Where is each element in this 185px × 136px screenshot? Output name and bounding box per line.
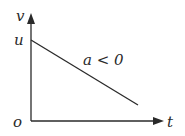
intercept-label: u (14, 31, 24, 49)
x-axis-arrow-icon (153, 117, 164, 125)
x-axis (31, 117, 164, 125)
y-axis (27, 13, 35, 121)
x-axis-label: t (167, 113, 174, 131)
y-axis-label: v (16, 7, 25, 25)
acceleration-label: a < 0 (83, 51, 124, 69)
velocity-line (31, 40, 138, 105)
origin-label: o (13, 113, 22, 131)
y-axis-arrow-icon (27, 13, 35, 24)
velocity-time-diagram: v u o t a < 0 (0, 0, 185, 136)
